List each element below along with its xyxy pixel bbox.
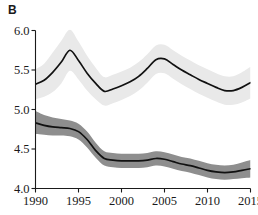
x-tick-label: 2015	[238, 194, 258, 208]
confidence-band-lower-series	[36, 111, 251, 180]
x-tick-label: 2010	[195, 194, 220, 208]
y-tick-label: 5.0	[14, 103, 30, 117]
x-tick-label: 2005	[152, 194, 177, 208]
confidence-band-upper-series	[36, 30, 251, 106]
x-tick-label: 2000	[109, 194, 134, 208]
x-tick-labels-group: 199019952000200520102015	[23, 194, 258, 208]
figure-panel-b: B 4.04.55.05.56.0 1990199520002005201020…	[0, 0, 258, 215]
y-tick-labels-group: 4.04.55.05.56.0	[14, 24, 30, 196]
x-tick-label: 1995	[66, 194, 91, 208]
panel-label: B	[8, 3, 17, 17]
line-chart: 4.04.55.05.56.0 199019952000200520102015	[0, 0, 258, 215]
y-tick-label: 5.5	[14, 63, 30, 77]
x-tick-label: 1990	[23, 194, 48, 208]
y-tick-label: 6.0	[14, 24, 30, 38]
y-tick-label: 4.5	[14, 142, 30, 156]
